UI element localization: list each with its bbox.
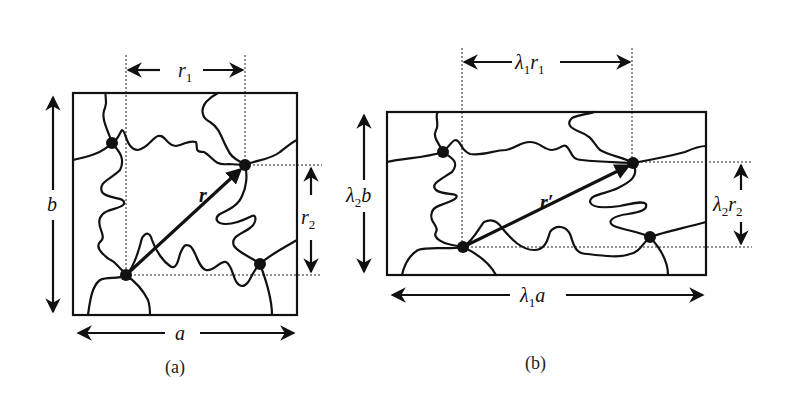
lambda2-b-label: λ2b [345,184,371,210]
r1-label: r1 [178,59,192,85]
affine-deformation-diagram: r1 r2 b a r (a) [0,0,806,403]
lambda2-r2-label: λ2r2 [712,193,742,219]
r2-label: r2 [301,206,315,232]
a-label: a [175,322,185,344]
end-to-end-vector-r [126,170,240,275]
b-label: b [47,193,57,215]
panel-a: r1 r2 b a r (a) [47,55,322,378]
caption-a: (a) [165,357,185,378]
guide-lines-b [462,48,752,247]
network-chains-a [73,93,297,315]
panel-b: λ1r1 λ2r2 λ2b λ1a r′ (b) [345,48,752,374]
vector-r-label: r [199,184,207,206]
lambda1-a-label: λ1a [519,284,545,310]
crosslink-nodes-a [106,137,266,281]
caption-b: (b) [525,353,546,374]
vector-r-prime-label: r′ [540,191,553,213]
lambda1-r1-label: λ1r1 [514,51,544,77]
